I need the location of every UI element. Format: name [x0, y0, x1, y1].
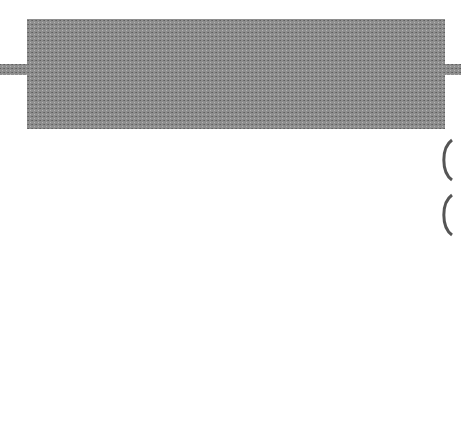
picture-frame	[27, 19, 445, 129]
rock-cycle-diagram	[0, 0, 461, 421]
